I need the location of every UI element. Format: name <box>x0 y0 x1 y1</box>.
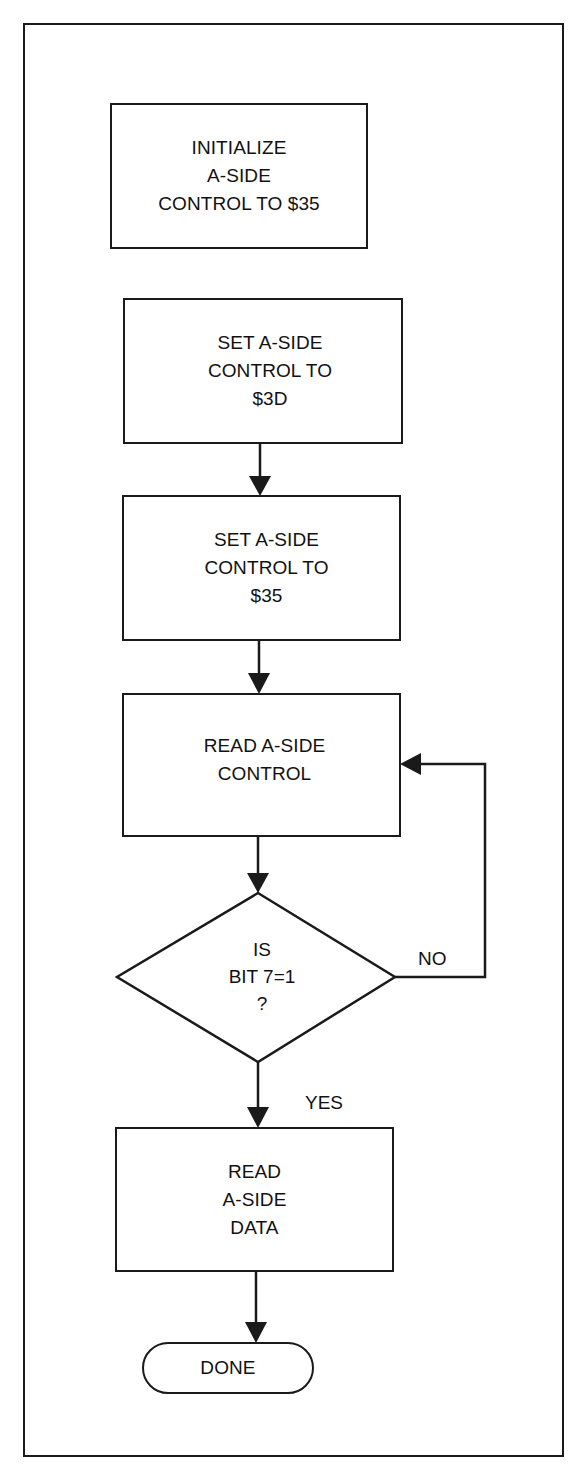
decision-label: IS BIT 7=1 ? <box>200 936 324 1017</box>
node-label: READ A-SIDE CONTROL <box>198 732 325 788</box>
arrowhead-down-icon <box>247 1107 269 1128</box>
arrowhead-down-icon <box>249 476 271 496</box>
node-label: READ A-SIDE DATA <box>223 1158 287 1242</box>
node-label: SET A-SIDE CONTROL TO $3D <box>194 329 332 413</box>
arrowhead-down-icon <box>248 673 270 694</box>
process-initialize: INITIALIZE A-SIDE CONTROL TO $35 <box>110 103 368 249</box>
process-read-control: READ A-SIDE CONTROL <box>122 693 401 837</box>
node-label: INITIALIZE A-SIDE CONTROL TO $35 <box>158 134 320 218</box>
arrowhead-down-icon <box>247 873 269 893</box>
arrowhead-left-icon <box>400 753 421 775</box>
no-loop-line <box>395 764 485 977</box>
edge-label-yes: YES <box>305 1092 343 1114</box>
node-label: SET A-SIDE CONTROL TO $35 <box>194 526 328 610</box>
terminator-done: DONE <box>142 1342 314 1394</box>
process-read-data: READ A-SIDE DATA <box>115 1127 394 1272</box>
edge-label-no: NO <box>418 948 447 970</box>
process-set-3d: SET A-SIDE CONTROL TO $3D <box>123 298 403 444</box>
arrowhead-down-icon <box>245 1322 267 1343</box>
node-label: DONE <box>200 1354 255 1382</box>
process-set-35: SET A-SIDE CONTROL TO $35 <box>122 495 401 641</box>
